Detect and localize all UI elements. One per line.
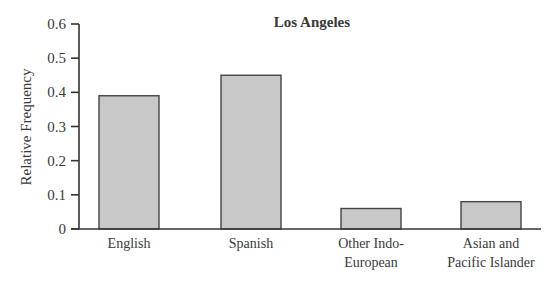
y-tick-label: 0 (59, 221, 67, 237)
bar-asian-and-pacific-islander (461, 202, 521, 229)
x-category-label: Asian and (463, 236, 519, 251)
bar-english (99, 96, 159, 229)
x-category-label: European (344, 255, 398, 270)
y-tick-label: 0.6 (47, 16, 66, 32)
y-tick-label: 0.1 (47, 187, 66, 203)
x-axis-labels: EnglishSpanishOther Indo-EuropeanAsian a… (108, 236, 535, 270)
bar-spanish (221, 75, 281, 229)
y-axis-label: Relative Frequency (18, 68, 34, 186)
x-category-label: Spanish (229, 236, 273, 251)
y-axis-ticks: 00.10.20.30.40.50.6 (47, 16, 79, 237)
y-tick-label: 0.4 (47, 84, 66, 100)
y-tick-label: 0.3 (47, 119, 66, 135)
x-category-label: Other Indo- (338, 236, 404, 251)
chart-title: Los Angeles (274, 14, 350, 30)
y-tick-label: 0.2 (47, 153, 66, 169)
x-category-label: Pacific Islander (447, 255, 535, 270)
bar-other-indo-european (341, 209, 401, 230)
x-category-label: English (108, 236, 151, 251)
bars (99, 75, 521, 229)
y-tick-label: 0.5 (47, 50, 66, 66)
bar-chart: Los Angeles Relative Frequency 00.10.20.… (0, 0, 551, 287)
